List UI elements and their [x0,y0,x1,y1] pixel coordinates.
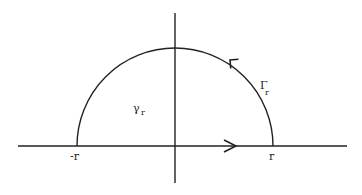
label-pos-r: r [269,150,275,163]
contour-diagram: -r r γ r Γ r [0,0,362,195]
label-neg-r: -r [70,150,80,163]
label-gamma: γ [133,102,140,115]
label-Gamma-sub: r [265,88,269,97]
label-gamma-sub: r [141,108,145,117]
